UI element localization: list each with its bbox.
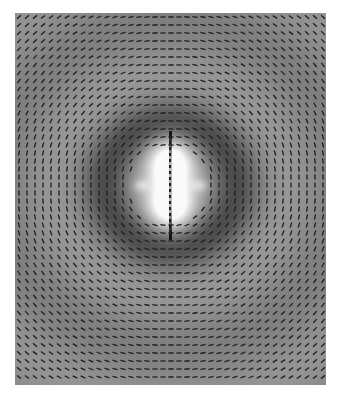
field-plot (15, 13, 326, 385)
vector-field-arrows (15, 13, 326, 385)
